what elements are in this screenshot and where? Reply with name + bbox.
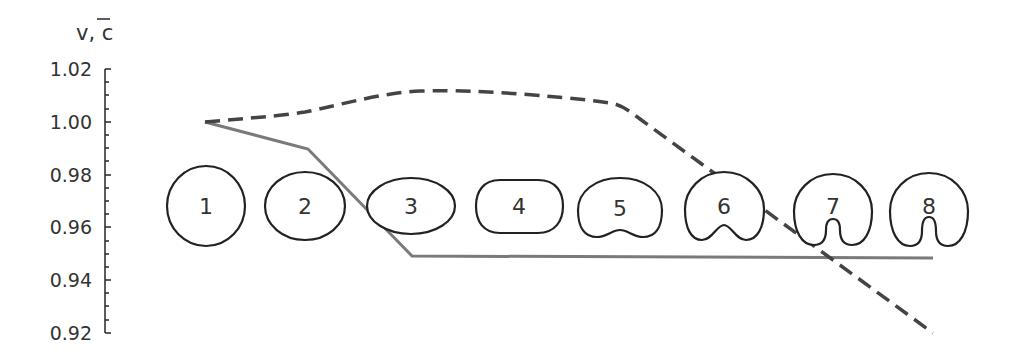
shape-1-label: 1 (199, 194, 213, 219)
shape-3: 3 (367, 178, 455, 234)
shape-4: 4 (476, 180, 563, 233)
shape-3-label: 3 (404, 194, 418, 219)
chart-canvas: v, c 1.02 1.00 0.98 0.96 0.94 0 (0, 0, 1018, 362)
tick-label-0-94: 0.94 (50, 269, 92, 291)
tick-label-0-98: 0.98 (50, 164, 92, 186)
shape-6-label: 6 (717, 194, 731, 219)
y-tick-labels: 1.02 1.00 0.98 0.96 0.94 0.92 (50, 58, 92, 344)
shape-5-label: 5 (613, 196, 627, 221)
shape-2: 2 (265, 172, 345, 240)
y-axis-title: v, c (76, 19, 113, 45)
y-axis-title-text: v, c (76, 21, 113, 45)
tick-label-0-96: 0.96 (50, 216, 92, 238)
tick-label-1-00: 1.00 (50, 111, 92, 133)
shape-1: 1 (167, 166, 245, 246)
tick-label-1-02: 1.02 (50, 58, 92, 80)
tick-label-0-92: 0.92 (50, 322, 92, 344)
shape-4-label: 4 (512, 194, 526, 219)
shape-5: 5 (578, 178, 662, 237)
shape-7: 7 (794, 174, 872, 245)
shape-2-label: 2 (298, 194, 312, 219)
shape-8: 8 (890, 173, 968, 246)
shape-8-label: 8 (922, 194, 936, 219)
y-axis (105, 69, 111, 333)
shape-7-label: 7 (826, 194, 840, 219)
cell-shapes: 1 2 3 4 5 6 7 (167, 166, 968, 246)
